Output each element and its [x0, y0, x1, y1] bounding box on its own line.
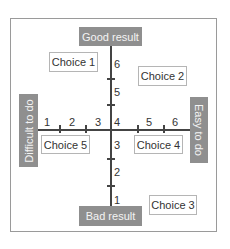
h-tick-label-2: 2 [69, 117, 75, 128]
horizontal-axis [38, 129, 190, 131]
difficult-to-do-label: Difficult to do [19, 94, 38, 167]
v-tick [107, 104, 115, 106]
v-tick [107, 158, 115, 160]
h-tick [163, 125, 165, 133]
h-tick-label-3: 3 [95, 117, 101, 128]
choice-2-box: Choice 2 [138, 66, 187, 86]
h-tick-label-1: 1 [44, 117, 50, 128]
bad-result-label: Bad result [79, 206, 142, 226]
v-tick-label-6: 6 [114, 59, 120, 70]
choice-3-box: Choice 3 [149, 195, 197, 215]
v-tick-label-3: 3 [114, 140, 120, 151]
v-tick [107, 185, 115, 187]
easy-to-do-text: Easy to do [193, 104, 205, 156]
h-tick-label-4: 4 [114, 117, 120, 128]
v-tick [107, 78, 115, 80]
h-tick [137, 125, 139, 133]
easy-to-do-label: Easy to do [190, 97, 208, 163]
v-tick-label-5: 5 [114, 87, 120, 98]
h-tick-label-5: 5 [146, 117, 152, 128]
good-result-label: Good result [79, 27, 142, 46]
v-tick-label-1: 1 [114, 195, 120, 206]
bad-result-text: Bad result [86, 210, 136, 222]
vertical-axis [110, 46, 112, 206]
choice-4-box: Choice 4 [134, 135, 183, 154]
choice-5-box: Choice 5 [41, 135, 90, 154]
h-tick [85, 125, 87, 133]
h-tick-label-6: 6 [172, 117, 178, 128]
choice-1-box: Choice 1 [49, 52, 98, 72]
h-tick [59, 125, 61, 133]
v-tick-label-2: 2 [114, 167, 120, 178]
difficult-to-do-text: Difficult to do [23, 99, 35, 162]
good-result-text: Good result [82, 31, 139, 43]
